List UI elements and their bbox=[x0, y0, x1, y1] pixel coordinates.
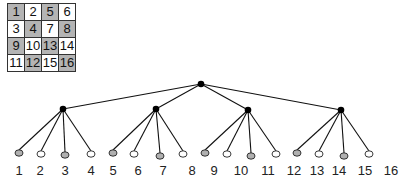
leaf-label: 11 bbox=[261, 163, 275, 178]
internal-node bbox=[60, 106, 67, 113]
tree-edge bbox=[63, 84, 201, 109]
leaf-label: 13 bbox=[310, 163, 324, 178]
leaf-node-gray bbox=[340, 153, 348, 159]
leaf-node-white bbox=[87, 151, 95, 157]
leaf-label: 8 bbox=[188, 163, 195, 178]
leaf-node-gray bbox=[61, 152, 69, 158]
tree-edge bbox=[156, 109, 160, 153]
leaf-label: 15 bbox=[358, 163, 372, 178]
leaf-node-white bbox=[272, 151, 280, 157]
leaf-labels: 12345678910111213141516 bbox=[15, 163, 398, 178]
internal-node bbox=[338, 107, 345, 114]
leaf-label: 10 bbox=[234, 163, 248, 178]
leaf-label: 7 bbox=[159, 163, 166, 178]
tree-edges bbox=[19, 84, 369, 153]
leaf-label: 4 bbox=[87, 163, 94, 178]
tree-edge bbox=[63, 109, 91, 151]
leaf-node-white bbox=[315, 151, 323, 157]
leaf-node-gray bbox=[156, 153, 164, 159]
tree-edge bbox=[205, 110, 248, 150]
internal-node bbox=[245, 107, 252, 114]
tree-edge bbox=[41, 109, 63, 151]
leaf-label: 16 bbox=[384, 163, 398, 178]
tree-edge bbox=[341, 110, 369, 151]
tree-edge bbox=[156, 109, 183, 151]
tree-edge bbox=[227, 110, 248, 151]
leaf-label: 1 bbox=[15, 163, 22, 178]
tree-edge bbox=[248, 110, 276, 151]
leaf-node-white bbox=[130, 151, 138, 157]
tree-edge bbox=[201, 84, 341, 110]
leaf-node-gray bbox=[109, 150, 117, 156]
leaf-label: 14 bbox=[332, 163, 346, 178]
leaf-label: 9 bbox=[210, 163, 217, 178]
leaf-label: 5 bbox=[109, 163, 116, 178]
tree-edge bbox=[134, 109, 156, 151]
tree-diagram: 12345678910111213141516 bbox=[0, 0, 406, 186]
leaf-node-white bbox=[365, 151, 373, 157]
leaf-label: 2 bbox=[36, 163, 43, 178]
leaf-label: 3 bbox=[61, 163, 68, 178]
tree-edge bbox=[248, 110, 251, 153]
tree-edge bbox=[297, 110, 341, 150]
leaf-node-gray bbox=[247, 153, 255, 159]
leaf-label: 6 bbox=[134, 163, 141, 178]
leaf-node-white bbox=[37, 151, 45, 157]
root-node bbox=[198, 81, 205, 88]
tree-edge bbox=[319, 110, 341, 151]
tree-edge bbox=[19, 109, 63, 150]
tree-edge bbox=[113, 109, 156, 150]
leaf-label: 12 bbox=[287, 163, 301, 178]
leaf-node-white bbox=[223, 151, 231, 157]
leaf-node-gray bbox=[201, 150, 209, 156]
leaf-node-gray bbox=[293, 150, 301, 156]
tree-edge bbox=[63, 109, 65, 152]
tree-nodes bbox=[15, 81, 373, 160]
tree-edge bbox=[341, 110, 344, 153]
leaf-node-gray bbox=[15, 150, 23, 156]
leaf-node-white bbox=[179, 151, 187, 157]
internal-node bbox=[153, 106, 160, 113]
